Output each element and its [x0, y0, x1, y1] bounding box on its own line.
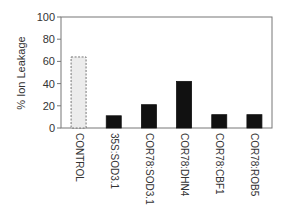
bar-cor78-rob5 — [247, 115, 262, 128]
bar-cor78-dhn4 — [177, 81, 192, 128]
bar-cor78-cbf1 — [212, 115, 227, 128]
bar-chart: 020406080100 CONTROL35S:SOD3.1COR78:SOD3… — [0, 0, 287, 212]
x-tick-label: COR78:DHN4 — [179, 133, 190, 197]
x-tick-label: COR78:CBF1 — [214, 133, 225, 195]
bar-control — [71, 57, 86, 128]
x-tick-label: COR78:SOD3.1 — [144, 133, 155, 205]
x-tick-label: CONTROL — [74, 133, 85, 182]
y-tick-label: 20 — [43, 100, 55, 112]
x-tick-label: 35S:SOD3.1 — [109, 133, 120, 190]
y-axis-title: % Ion Leakage — [15, 36, 27, 109]
bar-cor78-sod3-1 — [141, 105, 156, 128]
y-tick-label: 100 — [37, 11, 55, 23]
y-tick-label: 0 — [49, 122, 55, 134]
plot-frame — [61, 17, 272, 128]
y-tick-label: 60 — [43, 55, 55, 67]
x-tick-label: COR78:ROB5 — [249, 133, 260, 197]
y-tick-label: 40 — [43, 78, 55, 90]
bar-35s-sod3-1 — [106, 116, 121, 128]
y-tick-label: 80 — [43, 33, 55, 45]
